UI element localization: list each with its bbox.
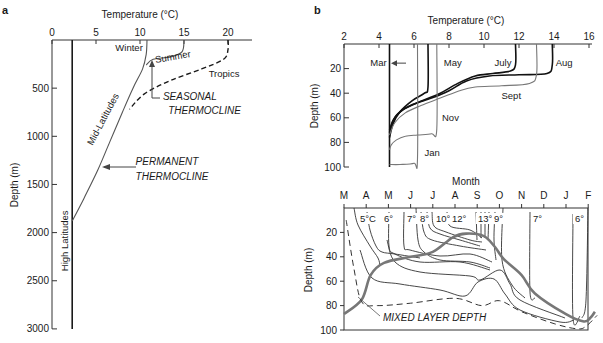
month-tick-label: O [496, 190, 504, 201]
x-tick-label: 6 [411, 31, 417, 42]
x-tick-label: 8 [446, 31, 452, 42]
month-tick-label: N [518, 190, 525, 201]
y-tick-label: 500 [32, 83, 49, 94]
mixed-layer-depth-label: MIXED LAYER DEPTH [383, 312, 487, 323]
annotation: Winter [115, 42, 142, 53]
y-tick-label: 100 [324, 162, 341, 173]
series-line [390, 44, 429, 138]
x-tick-label: 14 [548, 31, 560, 42]
month-tick-label: J [408, 190, 413, 201]
annotation: PERMANENT [136, 156, 200, 167]
month-tick-label: F [585, 190, 591, 201]
annotation: Summer [154, 48, 191, 65]
annotation: Mar [370, 57, 386, 68]
figure: a b Temperature (°C) Depth (m) Temperatu… [0, 0, 603, 343]
x-tick-label: 15 [178, 27, 190, 38]
y-tick-label: 80 [326, 300, 338, 311]
isotherm-label: 12° [452, 213, 467, 224]
y-tick-label: 1000 [27, 131, 50, 142]
annotation: Tropics [209, 68, 240, 79]
isotherm-line [572, 214, 580, 325]
panel-b-bottom-plot: MAMJJASONDJF204060801005°C6°7°8°10°12°13… [320, 190, 597, 336]
annotation: THERMOCLINE [168, 105, 241, 116]
x-tick-label: 0 [49, 27, 55, 38]
x-tick-label: 2 [341, 31, 347, 42]
annotation: Aug [556, 57, 573, 68]
panel-b-bottom-ylabel: Depth (m) [303, 248, 314, 292]
x-tick-label: 4 [376, 31, 382, 42]
month-tick-label: M [384, 190, 392, 201]
annotation: Jan [425, 147, 440, 158]
series-line [72, 40, 147, 221]
y-tick-label: 80 [330, 137, 342, 148]
panel-b-top-plot: 24681012141620406080100MarMayJulyAugSept… [324, 31, 595, 173]
month-tick-label: A [452, 190, 459, 201]
panel-a-ylabel: Depth (m) [9, 163, 20, 207]
annotation: Mid-Latitudes [85, 91, 122, 147]
isotherm-label: 5°C [360, 213, 376, 224]
month-tick-label: A [363, 190, 370, 201]
month-tick-label: S [474, 190, 481, 201]
y-tick-label: 20 [330, 63, 342, 74]
series-line [344, 234, 595, 322]
month-tick-label: J [564, 190, 569, 201]
series-line [390, 44, 553, 130]
annotation: May [444, 57, 462, 68]
y-tick-label: 60 [326, 276, 338, 287]
y-tick-label: 1500 [27, 179, 50, 190]
isotherm-line [582, 208, 588, 318]
x-tick-label: 16 [583, 31, 595, 42]
x-tick-label: 10 [134, 27, 146, 38]
x-tick-label: 12 [513, 31, 525, 42]
x-tick-label: 5 [93, 27, 99, 38]
isotherm-label: 8° [420, 213, 429, 224]
y-tick-label: 3000 [27, 323, 50, 334]
isotherm-label: 13° [478, 213, 493, 224]
annotation: THERMOCLINE [136, 171, 209, 182]
annotation: High Latitudes [59, 210, 70, 271]
y-tick-label: 100 [320, 325, 337, 336]
isotherm-line [387, 240, 565, 318]
isotherm-label: 10° [436, 213, 451, 224]
annotation: Sept [502, 90, 522, 101]
panel-b-label: b [314, 4, 321, 16]
y-tick-label: 40 [326, 251, 338, 262]
isotherm-label: 6° [575, 213, 584, 224]
isotherm-label: 7° [533, 213, 542, 224]
panel-a-label: a [2, 4, 9, 16]
x-tick-label: 10 [478, 31, 490, 42]
y-tick-label: 40 [330, 88, 342, 99]
annotation: Nov [442, 112, 459, 123]
panel-b-bottom-xlabel: Month [452, 176, 480, 187]
panel-b-top-xlabel: Temperature (°C) [428, 15, 505, 26]
panel-b-top-ylabel: Depth (m) [309, 84, 320, 128]
panel-a-xlabel: Temperature (°C) [102, 9, 179, 20]
month-tick-label: J [430, 190, 435, 201]
isotherm-label: 9° [494, 213, 503, 224]
panel-a-plot: 0510152050010001500200025003000WinterSum… [27, 27, 252, 334]
month-tick-label: M [340, 190, 348, 201]
y-tick-label: 2000 [27, 227, 50, 238]
y-tick-label: 60 [330, 112, 342, 123]
month-tick-label: D [540, 190, 547, 201]
y-tick-label: 2500 [27, 275, 50, 286]
isotherm-label: 7° [407, 213, 416, 224]
y-tick-label: 20 [326, 227, 338, 238]
x-tick-label: 20 [222, 27, 234, 38]
annotation: July [495, 57, 512, 68]
isotherm-label: 6° [384, 213, 393, 224]
annotation: SEASONAL [163, 91, 217, 102]
